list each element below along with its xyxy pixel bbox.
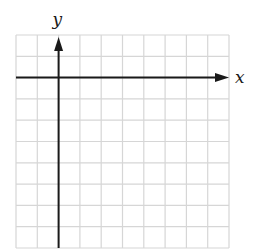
coordinate-grid-diagram: x y [0, 0, 255, 252]
y-axis-label: y [52, 9, 63, 29]
y-axis-arrow-icon [54, 37, 63, 51]
x-axis-label: x [235, 67, 245, 87]
x-axis-arrow-icon [215, 73, 229, 82]
grid-lines [16, 35, 229, 248]
